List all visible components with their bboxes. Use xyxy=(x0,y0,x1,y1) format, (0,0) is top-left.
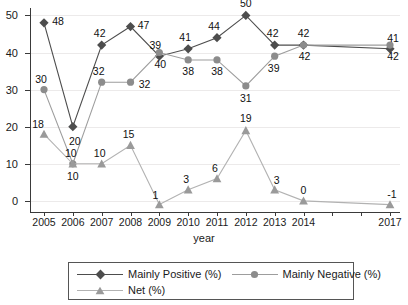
x-axis-tick-label: 2017 xyxy=(378,216,401,228)
data-point-label: 42 xyxy=(387,50,399,62)
data-point-label: 41 xyxy=(179,31,191,43)
legend-marker-triangle-icon xyxy=(77,284,123,296)
data-point-label: 10 xyxy=(65,147,77,159)
x-axis-title: year xyxy=(0,232,408,244)
data-point-label: 20 xyxy=(69,135,81,147)
data-point-label: 42 xyxy=(267,27,279,39)
data-point-label: 47 xyxy=(138,19,150,31)
data-point-label: 32 xyxy=(93,65,105,77)
data-point-label: 18 xyxy=(32,118,44,130)
data-point-label: 10 xyxy=(94,147,106,159)
data-point-label: 30 xyxy=(35,73,47,85)
series-layer xyxy=(30,8,400,212)
data-point-label: 32 xyxy=(139,78,151,90)
y-axis-tick-label: 30 xyxy=(6,84,18,96)
y-axis-tick-label: 10 xyxy=(6,158,18,170)
x-axis-tick-labels: 2005200620072008200920102011201220132014… xyxy=(30,216,400,232)
y-axis-tick-label: 20 xyxy=(6,121,18,133)
data-point-label: 48 xyxy=(52,15,64,27)
data-point-label: 38 xyxy=(182,65,194,77)
data-point-label: 0 xyxy=(301,184,307,196)
x-axis-tick-label: 2007 xyxy=(90,216,113,228)
legend-label-mainly-positive: Mainly Positive (%) xyxy=(128,268,222,280)
x-axis-tick-label: 2014 xyxy=(292,216,315,228)
data-point-label: 10 xyxy=(67,170,79,182)
data-point-label: 3 xyxy=(274,174,280,186)
data-point-label: 38 xyxy=(211,65,223,77)
legend-label-mainly-negative: Mainly Negative (%) xyxy=(283,268,381,280)
data-point-label: 42 xyxy=(298,27,310,39)
data-point-label: 1 xyxy=(152,189,158,201)
x-axis-tick-label: 2008 xyxy=(119,216,142,228)
data-point-label: 31 xyxy=(240,92,252,104)
x-axis-tick-label: 2005 xyxy=(32,216,55,228)
y-axis-tick-labels: 01020304050 xyxy=(0,8,26,212)
y-axis-tick-label: 40 xyxy=(6,47,18,59)
x-axis-tick-label: 2010 xyxy=(176,216,199,228)
data-point-label: 39 xyxy=(268,62,280,74)
data-point-label: 41 xyxy=(387,32,399,44)
y-axis-tick-label: 50 xyxy=(6,9,18,21)
data-point-label: 39 xyxy=(149,39,161,51)
line-chart: 01020304050 4820424739414450424241301032… xyxy=(0,0,408,305)
legend-label-net: Net (%) xyxy=(128,284,165,296)
data-point-label: 40 xyxy=(154,58,166,70)
data-point-label: 42 xyxy=(299,50,311,62)
data-point-label: 50 xyxy=(240,0,252,9)
legend-marker-circle-icon xyxy=(232,268,278,280)
x-axis-tick-label: 2011 xyxy=(206,216,229,228)
legend-marker-diamond-icon xyxy=(77,268,123,280)
data-point-label: 44 xyxy=(208,20,220,32)
x-axis-line xyxy=(30,212,400,213)
data-point-label: -1 xyxy=(387,188,396,200)
x-axis-tick-label: 2009 xyxy=(148,216,171,228)
data-point-label: 15 xyxy=(123,128,135,140)
legend-item-net[interactable]: Net (%) xyxy=(77,284,165,296)
plot-area: 4820424739414450424241301032324038383139… xyxy=(30,8,400,212)
y-axis-tick-label: 0 xyxy=(12,195,18,207)
data-point-label: 19 xyxy=(240,112,252,124)
data-point-label: 42 xyxy=(94,27,106,39)
data-point-label: 3 xyxy=(183,173,189,185)
data-point-label: 6 xyxy=(212,162,218,174)
x-axis-tick-label: 2013 xyxy=(263,216,286,228)
chart-legend: Mainly Positive (%) Mainly Negative (%) xyxy=(68,262,354,300)
x-axis-tick-label: 2012 xyxy=(234,216,257,228)
x-axis-tick-label: 2006 xyxy=(61,216,84,228)
legend-item-mainly-negative[interactable]: Mainly Negative (%) xyxy=(232,268,381,280)
legend-item-mainly-positive[interactable]: Mainly Positive (%) xyxy=(77,268,222,280)
